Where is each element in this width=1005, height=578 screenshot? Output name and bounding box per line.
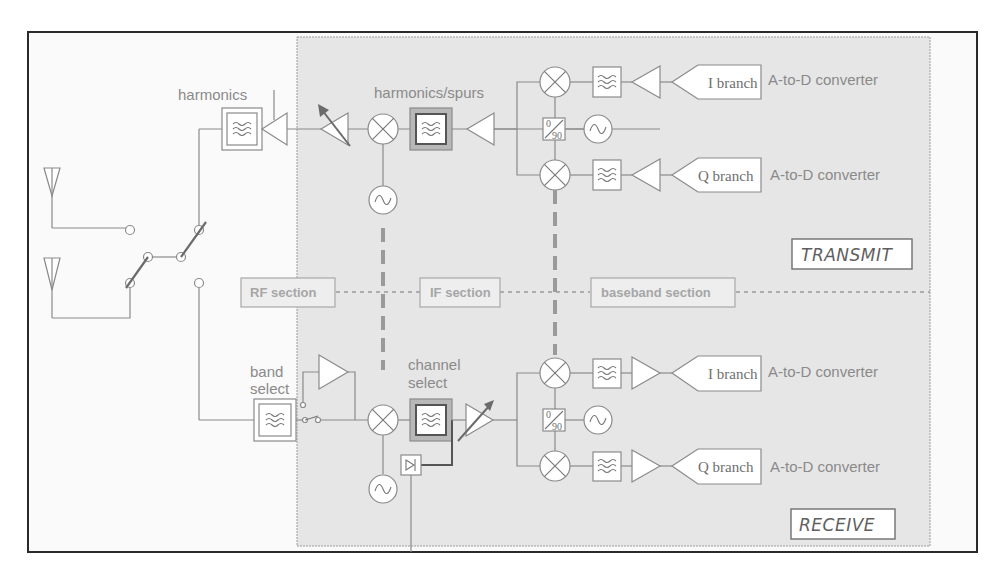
oscillator-icon — [369, 186, 397, 214]
rx-q-branch-label: Q branch — [698, 459, 754, 475]
detector-diode-icon — [401, 455, 421, 475]
tx-harmonics-spurs-label: harmonics/spurs — [374, 84, 484, 101]
rx-i-branch-label: I branch — [708, 366, 758, 382]
mixer-icon — [368, 114, 398, 144]
rx-q-mixer-icon — [540, 451, 570, 481]
rx-select-label: select — [250, 380, 290, 397]
rx-q-lowpass-filter — [593, 452, 621, 481]
section-label-rf: RF section — [241, 278, 335, 307]
svg-text:IF section: IF section — [430, 285, 491, 300]
rx-band-label: band — [250, 363, 283, 380]
tx-q-branch-label: Q branch — [698, 168, 754, 184]
rx-baseband-oscillator-icon — [584, 406, 612, 434]
rx-channel-select-filter — [410, 399, 452, 441]
svg-text:0: 0 — [546, 409, 551, 420]
tx-harmonics-filter — [222, 108, 262, 150]
section-label-if: IF section — [420, 278, 500, 307]
tx-i-converter-label: A-to-D converter — [768, 71, 878, 88]
rx-oscillator-icon — [369, 475, 397, 503]
svg-text:TRANSMIT: TRANSMIT — [801, 245, 894, 265]
svg-text:RF section: RF section — [250, 285, 317, 300]
tx-i-mixer-icon — [540, 67, 570, 97]
rx-phase-shifter: 0 90 — [543, 409, 565, 432]
tx-baseband-oscillator-icon — [584, 115, 612, 143]
rx-i-converter-label: A-to-D converter — [768, 363, 878, 380]
svg-text:0: 0 — [546, 118, 551, 129]
rx-q-converter-label: A-to-D converter — [770, 458, 880, 475]
tx-q-converter-label: A-to-D converter — [770, 166, 880, 183]
section-label-baseband: baseband section — [591, 278, 735, 307]
tx-harmonics-spurs-filter — [410, 108, 452, 150]
tx-phase-shifter: 0 90 — [543, 118, 565, 141]
tx-q-mixer-icon — [540, 160, 570, 190]
svg-text:90: 90 — [552, 130, 562, 141]
svg-text:90: 90 — [552, 421, 562, 432]
rx-i-mixer-icon — [540, 358, 570, 388]
tx-i-branch-label: I branch — [708, 75, 758, 91]
svg-text:baseband section: baseband section — [601, 285, 711, 300]
tx-q-lowpass-filter — [593, 160, 621, 190]
rx-channel-select-label: select — [408, 374, 448, 391]
receive-mode-badge: RECEIVE — [791, 509, 895, 539]
tx-i-lowpass-filter — [593, 67, 621, 97]
rx-channel-label: channel — [408, 356, 461, 373]
transmit-mode-badge: TRANSMIT — [792, 239, 912, 269]
rx-band-select-filter — [254, 399, 296, 441]
tx-harmonics-label: harmonics — [178, 86, 247, 103]
svg-text:RECEIVE: RECEIVE — [799, 515, 875, 535]
transceiver-diagram: I branch A-to-D converter 0 90 Q branch … — [0, 0, 1005, 578]
rx-if-mixer-icon — [368, 405, 398, 435]
rx-i-lowpass-filter — [593, 359, 621, 388]
